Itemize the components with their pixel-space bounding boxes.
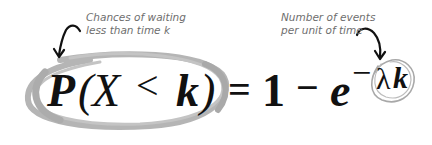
- formula-exponent-k: k: [393, 63, 408, 93]
- formula-k: k: [176, 68, 199, 114]
- formula-diagram: Chances of waiting less than time k Numb…: [0, 0, 432, 145]
- arrow-left-icon: [54, 26, 80, 57]
- annotation-left-line2: less than time k: [86, 24, 186, 37]
- formula-e: e: [330, 68, 350, 114]
- formula-P: P: [47, 68, 75, 114]
- formula-minus: −: [296, 68, 319, 108]
- formula-close-paren: ): [200, 68, 215, 114]
- annotation-right-line2: per unit of time: [281, 24, 375, 37]
- formula-X: X: [92, 68, 120, 114]
- formula-equals: =: [228, 70, 251, 110]
- formula-exponent-minus: −: [352, 56, 371, 90]
- annotation-chances-of-waiting: Chances of waiting less than time k: [86, 11, 186, 37]
- annotation-events-per-time: Number of events per unit of time: [281, 11, 375, 37]
- annotation-right-line1: Number of events: [281, 11, 375, 24]
- formula-one: 1: [262, 68, 285, 114]
- formula-less-than: <: [136, 66, 159, 106]
- formula-lambda: λ: [376, 64, 391, 94]
- annotation-left-line1: Chances of waiting: [86, 11, 186, 24]
